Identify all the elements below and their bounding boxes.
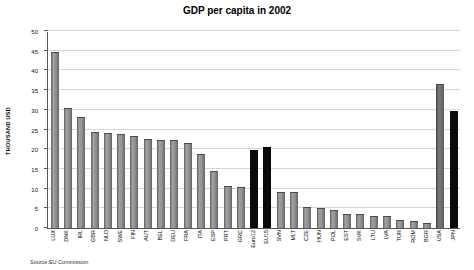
- bar-ltu: [370, 216, 378, 228]
- y-tick-label-25: 25: [31, 128, 38, 134]
- x-label-slot-swe: SWE: [114, 230, 127, 258]
- bar-slot-lva: [380, 32, 393, 228]
- x-label-usa: USA: [437, 230, 443, 241]
- x-label-slot-fra: FRA: [180, 230, 193, 258]
- bar-slot-ita: [194, 32, 207, 228]
- bar-nld: [104, 133, 112, 228]
- x-label-lux: LUX: [51, 230, 57, 241]
- bar-rom: [410, 221, 418, 228]
- bar-slot-jpn: [447, 32, 460, 228]
- bars-row: [48, 32, 460, 228]
- y-tick-label-0: 0: [35, 226, 38, 232]
- bar-slot-aut: [141, 32, 154, 228]
- y-tick-label-10: 10: [31, 187, 38, 193]
- y-tickmark-45: [44, 50, 48, 51]
- y-tick-label-5: 5: [35, 206, 38, 212]
- y-tickmark-15: [44, 168, 48, 169]
- bar-eu15: [263, 147, 271, 228]
- x-label-est: EST: [344, 230, 350, 241]
- x-label-slot-ltu: LTU: [367, 230, 380, 258]
- x-label-slot-tur: TUR: [394, 230, 407, 258]
- x-label-slot-bgr: BGR: [420, 230, 433, 258]
- x-label-mlt: MLT: [291, 230, 297, 241]
- bar-slot-cze: [301, 32, 314, 228]
- bar-euro12: [250, 150, 258, 228]
- bar-fin: [130, 136, 138, 228]
- bar-irl: [77, 117, 85, 228]
- y-tick-label-45: 45: [31, 49, 38, 55]
- x-label-slot-cze: CZE: [300, 230, 313, 258]
- y-tickmark-35: [44, 89, 48, 90]
- source-note: Source:EU Commission: [30, 259, 88, 265]
- bar-slot-deu: [168, 32, 181, 228]
- x-label-euro12: Euro12: [251, 230, 257, 248]
- bar-deu: [170, 140, 178, 228]
- bar-slot-dnk: [61, 32, 74, 228]
- bar-hun: [317, 208, 325, 228]
- bar-slot-bgr: [420, 32, 433, 228]
- x-label-ita: ITA: [198, 230, 204, 238]
- x-axis-category-labels: LUXDNKIRLGBRNLDSWEFINAUTBELDEUFRAITAESPP…: [47, 230, 460, 258]
- bar-slot-mlt: [287, 32, 300, 228]
- bar-jpn: [450, 111, 458, 228]
- x-label-deu: DEU: [171, 230, 177, 242]
- x-label-slot-euro12: Euro12: [247, 230, 260, 258]
- x-label-lva: LVA: [384, 230, 390, 240]
- bar-dnk: [64, 108, 72, 228]
- x-label-slot-irl: IRL: [74, 230, 87, 258]
- bar-tur: [396, 220, 404, 228]
- x-label-svk: SVK: [357, 230, 363, 241]
- bar-slot-nld: [101, 32, 114, 228]
- bar-fra: [184, 143, 192, 228]
- bar-slot-fin: [128, 32, 141, 228]
- x-label-slot-lva: LVA: [380, 230, 393, 258]
- bar-gbr: [91, 132, 99, 228]
- bar-bel: [157, 140, 165, 228]
- bar-mlt: [290, 192, 298, 228]
- y-tickmark-30: [44, 109, 48, 110]
- x-label-fin: FIN: [131, 230, 137, 239]
- bar-slot-euro12: [247, 32, 260, 228]
- bar-slot-grc: [234, 32, 247, 228]
- bar-slot-hun: [314, 32, 327, 228]
- bar-est: [343, 214, 351, 228]
- bar-lux: [51, 52, 59, 228]
- y-tickmark-25: [44, 129, 48, 130]
- x-label-bel: BEL: [158, 230, 164, 240]
- bar-slot-ltu: [367, 32, 380, 228]
- x-label-irl: IRL: [78, 230, 84, 239]
- y-tickmark-0: [44, 227, 48, 228]
- x-label-slot-jpn: JPN: [447, 230, 460, 258]
- bar-aut: [144, 139, 152, 228]
- bar-pol: [330, 210, 338, 228]
- bar-slot-rom: [407, 32, 420, 228]
- bar-grc: [237, 187, 245, 228]
- bar-svn: [277, 192, 285, 228]
- x-label-cze: CZE: [304, 230, 310, 241]
- x-label-slot-svk: SVK: [354, 230, 367, 258]
- x-label-slot-grc: GRC: [234, 230, 247, 258]
- bar-slot-svk: [354, 32, 367, 228]
- x-label-slot-gbr: GBR: [87, 230, 100, 258]
- bar-usa: [436, 84, 444, 228]
- y-tick-label-40: 40: [31, 68, 38, 74]
- bar-slot-fra: [181, 32, 194, 228]
- x-label-slot-ita: ITA: [194, 230, 207, 258]
- y-tickmark-5: [44, 207, 48, 208]
- plot-area: [47, 32, 460, 229]
- bar-esp: [210, 171, 218, 228]
- y-tickmark-10: [44, 188, 48, 189]
- y-tick-label-50: 50: [31, 29, 38, 35]
- x-label-slot-est: EST: [340, 230, 353, 258]
- x-label-slot-svn: SVN: [274, 230, 287, 258]
- bar-slot-bel: [154, 32, 167, 228]
- bar-slot-prt: [221, 32, 234, 228]
- bar-slot-irl: [75, 32, 88, 228]
- y-tickmark-50: [44, 30, 48, 31]
- x-label-jpn: JPN: [451, 230, 457, 240]
- x-label-svn: SVN: [277, 230, 283, 241]
- x-label-grc: GRC: [238, 230, 244, 242]
- y-tick-label-20: 20: [31, 147, 38, 153]
- y-tick-label-35: 35: [31, 88, 38, 94]
- y-tick-label-30: 30: [31, 108, 38, 114]
